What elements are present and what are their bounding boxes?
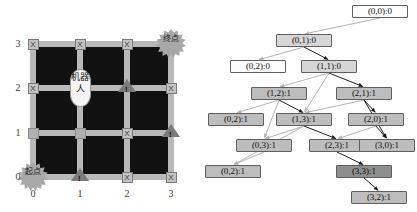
tree-node[interactable]: (2,0):1 (348, 113, 404, 126)
cell-x-icon: X (28, 39, 39, 50)
tree-node[interactable]: (1,1):0 (301, 60, 357, 73)
figure-root: XXXX!XX!!XX机器人起点终点 01233210 (0,0):0(0,1)… (0, 0, 417, 212)
maze-area (30, 41, 174, 180)
x-axis-tick-3: 3 (164, 188, 178, 200)
cell-open-marker (75, 128, 86, 139)
corridor-col-3 (168, 41, 174, 180)
tree-edge (237, 100, 279, 113)
cell-x-icon: X (28, 83, 39, 94)
tree-edge (337, 152, 363, 164)
cell-x-icon: X (166, 172, 177, 183)
tree-node[interactable]: (3,0):1 (359, 139, 415, 152)
warning-exclamation-glyph: ! (78, 175, 81, 183)
tree-edge (304, 47, 328, 59)
tree-edge (338, 126, 376, 139)
cell-x-icon: X (122, 172, 133, 183)
tree-edge (376, 126, 386, 138)
warning-exclamation-glyph: ! (125, 86, 128, 94)
tree-node[interactable]: (0,1):0 (276, 34, 332, 47)
corridor-row-2 (30, 85, 174, 91)
corridor-col-2 (124, 41, 130, 180)
tree-edge (364, 178, 378, 190)
tree-node[interactable]: (3,2):1 (351, 191, 407, 204)
corridor-col-1 (77, 41, 83, 180)
grid-map-panel: XXXX!XX!!XX机器人起点终点 01233210 (0, 0, 200, 212)
corridor-row-3 (30, 41, 174, 47)
y-axis-tick-3: 3 (11, 38, 25, 50)
tree-node[interactable]: (0,3):1 (236, 139, 292, 152)
tree-edges (200, 0, 417, 212)
cell-open-marker (28, 128, 39, 139)
corridor-col-0 (30, 41, 36, 180)
y-axis-tick-2: 2 (11, 82, 25, 94)
tree-node[interactable]: (1,3):1 (276, 113, 332, 126)
tree-edge (305, 100, 364, 113)
tree-node[interactable]: (0,2):0 (230, 60, 286, 73)
tree-node[interactable]: (0,2):1 (208, 113, 264, 126)
tree-node[interactable]: (0,0):0 (352, 5, 408, 18)
tree-edge (329, 73, 363, 86)
tree-edge (305, 18, 380, 34)
tree-edge (259, 47, 304, 60)
search-tree-panel: (0,0):0(0,1):0(0,2):0(1,1):0(1,2):1(2,1)… (200, 0, 417, 212)
tree-node[interactable]: (3,3):1 (336, 165, 392, 178)
cell-x-icon: X (122, 128, 133, 139)
warning-exclamation-glyph: ! (169, 131, 172, 139)
goal-badge-label: 终点 (156, 34, 186, 43)
tree-edge (279, 100, 303, 112)
tree-edge (304, 126, 336, 138)
x-axis-tick-2: 2 (120, 188, 134, 200)
cell-x-icon: X (122, 39, 133, 50)
y-axis-tick-0: 0 (11, 171, 25, 183)
x-axis-tick-0: 0 (26, 188, 40, 200)
tree-node[interactable]: (1,2):1 (251, 87, 307, 100)
cell-x-icon: X (166, 83, 177, 94)
corridor-row-0 (30, 174, 174, 180)
corridor-row-1 (30, 130, 174, 136)
robot-label: 机器人 (70, 69, 91, 107)
goal-badge: 终点 (156, 29, 186, 59)
tree-node[interactable]: (2,3):1 (309, 139, 365, 152)
tree-node[interactable]: (0,2):1 (205, 165, 261, 178)
tree-node[interactable]: (2,1):1 (336, 87, 392, 100)
tree-edge (234, 152, 264, 164)
cell-x-icon: X (75, 39, 86, 50)
y-axis-tick-1: 1 (11, 127, 25, 139)
x-axis-tick-1: 1 (73, 188, 87, 200)
